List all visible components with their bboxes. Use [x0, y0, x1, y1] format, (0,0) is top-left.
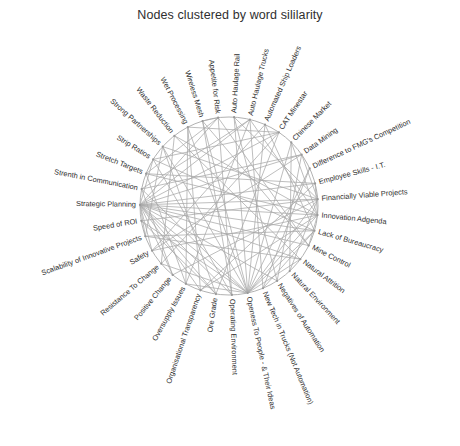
graph-node[interactable]	[264, 124, 266, 126]
graph-node[interactable]	[313, 230, 315, 232]
graph-node[interactable]	[145, 173, 147, 175]
graph-edge	[263, 168, 310, 288]
node-label: Innovation Adgenda	[321, 210, 388, 226]
graph-node[interactable]	[160, 263, 162, 265]
node-labels-group: Appetite for RiskAuto Haulage RailAuto H…	[40, 44, 412, 410]
node-label: Resistance To Change	[98, 262, 160, 317]
circular-network-graph: Appetite for RiskAuto Haulage RailAuto H…	[0, 0, 460, 446]
node-label: Wireless Mesh	[183, 69, 206, 118]
graph-node[interactable]	[249, 118, 251, 120]
graph-node[interactable]	[290, 141, 292, 143]
edges-group	[140, 117, 318, 295]
graph-node[interactable]	[173, 135, 175, 137]
network-chart-figure: Nodes clustered by word sililarity Appet…	[0, 0, 460, 446]
graph-node[interactable]	[247, 292, 249, 294]
node-label: Safety	[128, 248, 151, 266]
graph-node[interactable]	[299, 258, 301, 260]
graph-node[interactable]	[172, 274, 174, 276]
node-label: Appetite for Risk	[207, 59, 223, 114]
graph-edge	[248, 125, 265, 293]
graph-node[interactable]	[314, 182, 316, 184]
node-label: Auto Haulage Rail	[229, 53, 241, 113]
node-label: Strategic Planning	[76, 199, 136, 209]
graph-node[interactable]	[215, 293, 217, 295]
graph-edge	[188, 127, 279, 132]
graph-node[interactable]	[140, 220, 142, 222]
graph-node[interactable]	[289, 270, 291, 272]
graph-node[interactable]	[276, 280, 278, 282]
graph-node[interactable]	[185, 283, 187, 285]
graph-node[interactable]	[217, 117, 219, 119]
graph-node[interactable]	[144, 235, 146, 237]
node-label: Ore Grade	[205, 297, 219, 333]
node-label: Speed of ROI	[92, 216, 138, 232]
graph-node[interactable]	[187, 126, 189, 128]
node-label: Difference to FMG's Competition	[311, 117, 412, 170]
graph-node[interactable]	[201, 120, 203, 122]
node-label: Financially Viable Projects	[321, 187, 408, 203]
node-label: Strenth in Communication	[53, 167, 138, 192]
graph-node[interactable]	[139, 204, 141, 206]
graph-node[interactable]	[308, 245, 310, 247]
graph-node[interactable]	[317, 198, 319, 200]
node-label: Operating Environment	[228, 299, 239, 375]
graph-node[interactable]	[231, 294, 233, 296]
graph-node[interactable]	[233, 116, 235, 118]
graph-node[interactable]	[309, 167, 311, 169]
node-label: Scalability of Innovative Projects	[40, 233, 143, 278]
graph-node[interactable]	[262, 287, 264, 289]
graph-node[interactable]	[199, 289, 201, 291]
graph-node[interactable]	[162, 146, 164, 148]
graph-node[interactable]	[151, 250, 153, 252]
graph-node[interactable]	[316, 214, 318, 216]
graph-node[interactable]	[301, 153, 303, 155]
graph-node[interactable]	[278, 131, 280, 133]
graph-node[interactable]	[141, 188, 143, 190]
graph-node[interactable]	[152, 158, 154, 160]
